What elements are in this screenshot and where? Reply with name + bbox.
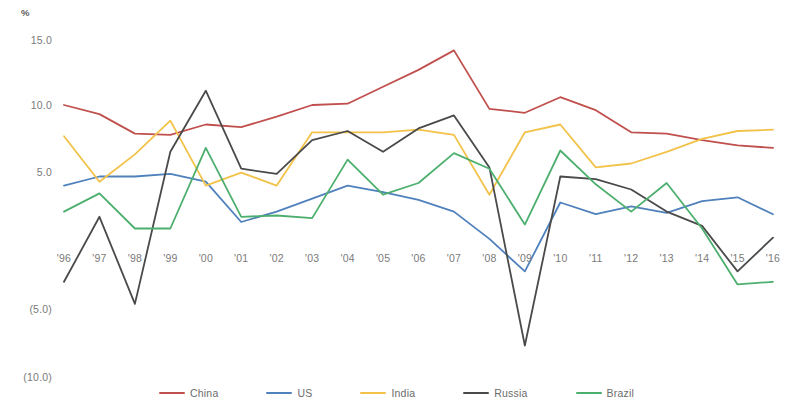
x-axis-tick-09: '09 bbox=[505, 252, 545, 264]
x-axis-tick-00: '00 bbox=[186, 252, 226, 264]
x-axis-tick-06: '06 bbox=[399, 252, 439, 264]
legend-item-russia[interactable]: Russia bbox=[463, 387, 527, 399]
legend-label-brazil: Brazil bbox=[607, 387, 634, 399]
x-axis-tick-04: '04 bbox=[328, 252, 368, 264]
x-axis-tick-97: '97 bbox=[79, 252, 119, 264]
legend-label-china: China bbox=[190, 387, 218, 399]
legend-swatch-brazil bbox=[576, 392, 602, 395]
x-axis-tick-07: '07 bbox=[434, 252, 474, 264]
x-axis-tick-96: '96 bbox=[44, 252, 84, 264]
x-axis-tick-11: '11 bbox=[576, 252, 616, 264]
line-chart: % 15.0 10.0 5.0 (5.0) (10.0) '96'97'98'9… bbox=[0, 0, 793, 404]
x-axis-tick-08: '08 bbox=[469, 252, 509, 264]
legend-item-brazil[interactable]: Brazil bbox=[576, 387, 634, 399]
legend-label-russia: Russia bbox=[494, 387, 527, 399]
legend-label-india: India bbox=[391, 387, 415, 399]
x-axis-tick-12: '12 bbox=[611, 252, 651, 264]
x-axis-tick-05: '05 bbox=[363, 252, 403, 264]
x-axis-tick-02: '02 bbox=[257, 252, 297, 264]
x-axis-tick-15: '15 bbox=[718, 252, 758, 264]
legend-swatch-us bbox=[266, 392, 292, 395]
legend-swatch-russia bbox=[463, 392, 489, 395]
x-axis-tick-10: '10 bbox=[540, 252, 580, 264]
plot-area bbox=[0, 0, 793, 404]
legend-swatch-india bbox=[360, 392, 386, 395]
series-line-russia bbox=[64, 91, 773, 346]
legend-item-us[interactable]: US bbox=[266, 387, 312, 399]
legend-label-us: US bbox=[297, 387, 312, 399]
x-axis-tick-14: '14 bbox=[682, 252, 722, 264]
legend-item-india[interactable]: India bbox=[360, 387, 415, 399]
series-line-china bbox=[64, 50, 773, 147]
x-axis-tick-16: '16 bbox=[753, 252, 793, 264]
x-axis-tick-01: '01 bbox=[221, 252, 261, 264]
legend-swatch-china bbox=[159, 392, 185, 395]
chart-legend: ChinaUSIndiaRussiaBrazil bbox=[0, 383, 793, 403]
x-axis-tick-99: '99 bbox=[150, 252, 190, 264]
x-axis-tick-03: '03 bbox=[292, 252, 332, 264]
x-axis-tick-98: '98 bbox=[115, 252, 155, 264]
x-axis-tick-13: '13 bbox=[647, 252, 687, 264]
legend-item-china[interactable]: China bbox=[159, 387, 218, 399]
